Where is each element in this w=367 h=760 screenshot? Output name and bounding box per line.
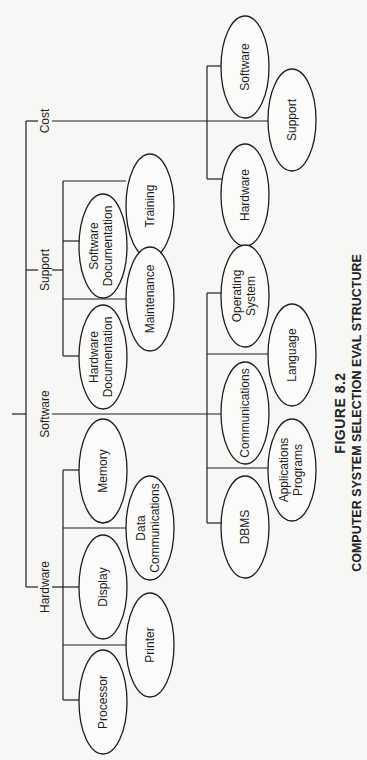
node-label: DBMS — [238, 510, 252, 545]
node-label: Printer — [143, 627, 157, 662]
node-label: Maintenance — [143, 264, 157, 333]
branch-label-cost: Cost — [38, 108, 52, 133]
node-label-line2: Documentation — [101, 317, 115, 398]
node-label: Processor — [96, 675, 110, 729]
node-processor: Processor — [79, 650, 127, 754]
node-display: Display — [79, 535, 127, 639]
node-training: Training — [126, 154, 174, 258]
node-operating-system: Operating System — [221, 245, 269, 347]
node-software-documentation: Software Documentation — [79, 194, 127, 298]
node-label: Communications — [238, 368, 252, 457]
node-label: Memory — [96, 449, 110, 492]
node-label-line2: Communications — [148, 483, 162, 572]
node-cost-support: Support — [268, 69, 316, 171]
node-dbms: DBMS — [221, 476, 269, 578]
node-label-line1: Software — [87, 222, 101, 270]
support-nodes: Training Software Documentation Maintena… — [79, 154, 174, 409]
node-label-line1: Data — [134, 515, 148, 541]
node-label-line1: Operating — [230, 270, 244, 323]
node-label: Hardware — [238, 169, 252, 221]
node-cost-hardware: Hardware — [221, 144, 269, 246]
evaluation-structure-diagram: Cost Support Software Hardware Software … — [0, 0, 367, 760]
node-label: Language — [285, 328, 299, 382]
node-label-line1: Applications — [277, 438, 291, 503]
node-label: Support — [285, 98, 299, 141]
node-data-communications: Data Communications — [126, 476, 174, 580]
node-communications: Communications — [221, 362, 269, 464]
hardware-nodes: Memory Data Communications Display Print… — [79, 419, 174, 754]
branch-label-hardware: Hardware — [38, 561, 52, 613]
branch-labels: Cost Support Software Hardware — [38, 108, 52, 613]
branch-label-support: Support — [38, 248, 52, 291]
node-label: Training — [143, 185, 157, 228]
node-hardware-documentation: Hardware Documentation — [79, 305, 127, 409]
node-applications-programs: Applications Programs — [268, 419, 316, 521]
node-language: Language — [268, 304, 316, 406]
node-memory: Memory — [79, 419, 127, 523]
node-label: Display — [96, 567, 110, 606]
figure-title: COMPUTER SYSTEM SELECTION EVAL STRUCTURE — [350, 254, 364, 572]
software-nodes: Operating System Language Communications… — [221, 245, 316, 578]
cost-nodes: Software Hardware Support — [221, 16, 316, 246]
node-label-line2: Programs — [291, 444, 305, 496]
node-label-line2: Documentation — [101, 206, 115, 287]
branch-label-software: Software — [38, 390, 52, 438]
node-maintenance: Maintenance — [126, 247, 174, 351]
node-label-line1: Hardware — [87, 331, 101, 383]
node-label-line2: System — [244, 276, 258, 316]
node-printer: Printer — [126, 593, 174, 697]
node-cost-software: Software — [221, 16, 269, 118]
figure-caption: FIGURE 8.2 COMPUTER SYSTEM SELECTION EVA… — [332, 254, 364, 572]
figure-number: FIGURE 8.2 — [332, 372, 348, 453]
node-label: Software — [238, 43, 252, 91]
